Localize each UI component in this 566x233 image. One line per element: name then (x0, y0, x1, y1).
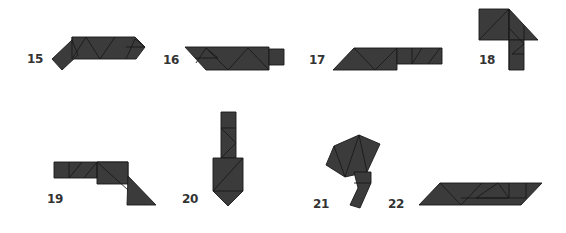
puzzle-number-20: 20 (182, 192, 198, 206)
tangram-17 (333, 48, 442, 70)
puzzle-number-22: 22 (388, 197, 404, 211)
puzzle-number-17: 17 (309, 53, 325, 67)
puzzle-number-21: 21 (313, 197, 329, 211)
tangram-19 (54, 162, 156, 205)
puzzle-number-15: 15 (27, 52, 43, 66)
tangram-figures (0, 0, 566, 233)
tangram-15 (52, 37, 145, 70)
puzzle-number-18: 18 (479, 53, 495, 67)
tangram-16 (185, 47, 284, 70)
tangram-20 (213, 112, 243, 206)
tangram-21 (326, 135, 380, 208)
tangram-22 (419, 183, 542, 205)
puzzle-number-19: 19 (47, 192, 63, 206)
puzzle-number-16: 16 (163, 53, 179, 67)
